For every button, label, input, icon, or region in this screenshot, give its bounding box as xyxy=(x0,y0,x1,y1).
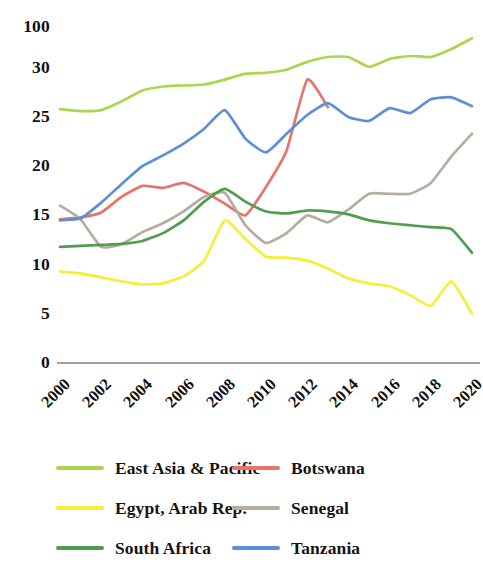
x-tick-label-2002: 2002 xyxy=(71,376,115,420)
x-tick-label-2020: 2020 xyxy=(441,376,483,420)
x-tick-label-2000: 2000 xyxy=(29,376,73,420)
line-chart: 051015202530100 200020022004200620082010… xyxy=(0,0,483,569)
series-line-egypt-arab-rep xyxy=(60,220,472,314)
legend-label-tanzania: Tanzania xyxy=(291,538,360,559)
legend-item-east-asia-pacific[interactable]: East Asia & Pacific xyxy=(0,448,232,488)
legend-item-botswana[interactable]: Botswana xyxy=(232,448,462,488)
legend-swatch-east-asia-pacific xyxy=(56,466,104,469)
x-tick-label-2010: 2010 xyxy=(235,376,279,420)
series-line-east-asia-pacific xyxy=(60,38,472,111)
y-tick-label-20: 20 xyxy=(4,157,50,175)
chart-legend: East Asia & PacificBotswanaEgypt, Arab R… xyxy=(0,448,483,569)
legend-swatch-tanzania xyxy=(232,546,280,549)
x-axis-tick-labels: 2000200220042006200820102012201420162018… xyxy=(0,362,483,437)
y-tick-label-5: 5 xyxy=(4,305,50,323)
legend-label-egypt-arab-rep: Egypt, Arab Rep. xyxy=(115,498,247,519)
legend-item-south-africa[interactable]: South Africa xyxy=(0,528,232,568)
y-tick-label-25: 25 xyxy=(4,108,50,126)
x-tick-label-2008: 2008 xyxy=(194,376,238,420)
x-tick-label-2014: 2014 xyxy=(318,376,362,420)
legend-item-tanzania[interactable]: Tanzania xyxy=(232,528,462,568)
y-tick-label-10: 10 xyxy=(4,256,50,274)
series-line-botswana xyxy=(60,79,328,219)
legend-item-senegal[interactable]: Senegal xyxy=(232,488,462,528)
x-tick-label-2016: 2016 xyxy=(359,376,403,420)
legend-row: East Asia & PacificBotswana xyxy=(0,448,483,488)
legend-label-south-africa: South Africa xyxy=(115,538,211,559)
series-line-senegal xyxy=(60,134,472,248)
y-tick-label-100: 100 xyxy=(4,18,50,36)
legend-swatch-senegal xyxy=(232,506,280,509)
x-tick-label-2006: 2006 xyxy=(153,376,197,420)
legend-row: Egypt, Arab Rep.Senegal xyxy=(0,488,483,528)
legend-label-senegal: Senegal xyxy=(291,498,349,519)
legend-item-egypt-arab-rep[interactable]: Egypt, Arab Rep. xyxy=(0,488,232,528)
x-tick-label-2018: 2018 xyxy=(400,376,444,420)
series-line-tanzania xyxy=(60,97,472,220)
y-tick-label-15: 15 xyxy=(4,206,50,224)
legend-swatch-south-africa xyxy=(56,546,104,549)
y-tick-label-30: 30 xyxy=(4,59,50,77)
x-tick-label-2004: 2004 xyxy=(112,376,156,420)
legend-swatch-botswana xyxy=(232,466,280,469)
legend-swatch-egypt-arab-rep xyxy=(56,506,104,509)
x-tick-label-2012: 2012 xyxy=(277,376,321,420)
legend-label-botswana: Botswana xyxy=(291,458,365,479)
legend-row: South AfricaTanzania xyxy=(0,528,483,568)
